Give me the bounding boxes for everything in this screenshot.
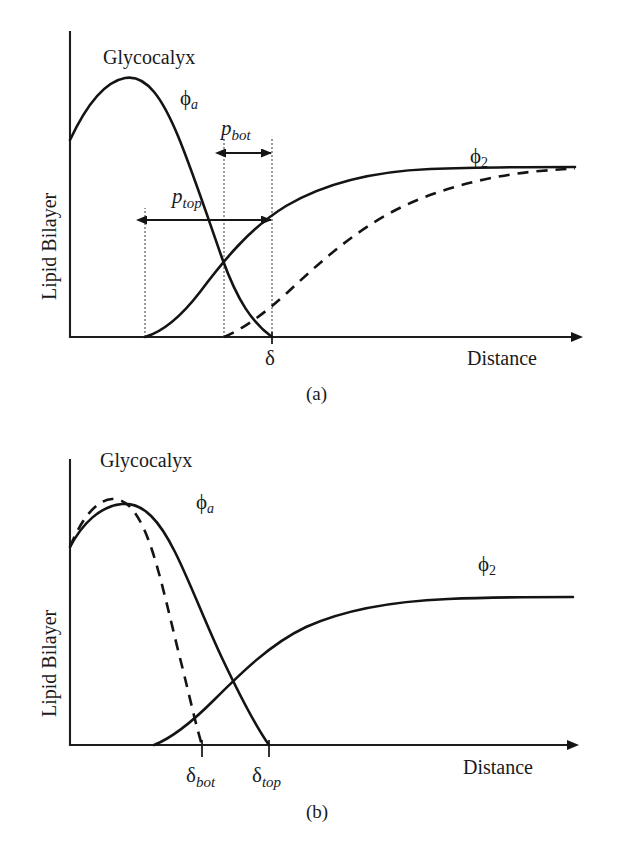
panel-a-y-axis-label: Lipid Bilayer: [38, 193, 61, 300]
panel-b-delta-top-label: δtop: [252, 765, 281, 790]
panel-b-delta-bot-label: δbot: [186, 765, 215, 790]
panel-a-glycocalyx-label: Glycocalyx: [103, 47, 195, 67]
panel-b-phi-2-label: ϕ2: [478, 554, 496, 578]
panel-b-caption: (b): [306, 802, 328, 821]
curve-phi-2-solid: [145, 167, 575, 337]
curve-phi-a-dashed-b: [70, 499, 202, 745]
phi-a-subscript: a: [207, 501, 214, 516]
p-bot-subscript: bot: [232, 127, 251, 143]
panel-b-y-axis-label: Lipid Bilayer: [38, 610, 61, 717]
panel-a-phi-2-label: ϕ2: [470, 146, 488, 170]
delta-top-subscript: top: [262, 774, 281, 790]
phi-a-subscript: a: [191, 97, 198, 112]
phi-a-glyph: ϕ: [180, 86, 191, 110]
panel-a-p-top-label: ptop: [172, 186, 202, 211]
delta-bot-subscript: bot: [196, 774, 215, 790]
delta-bot-glyph: δ: [186, 763, 196, 787]
phi-2-glyph: ϕ: [470, 144, 481, 168]
curve-phi-a-solid-b: [70, 504, 269, 745]
p-top-subscript: top: [183, 195, 202, 211]
curve-phi-2-dashed: [224, 169, 575, 338]
delta-top-glyph: δ: [252, 763, 262, 787]
panel-a-x-axis-label: Distance: [467, 348, 537, 368]
curve-phi-2-solid-b: [154, 597, 573, 745]
panel-a-caption: (a): [306, 384, 327, 403]
p-bot-glyph: p: [221, 116, 232, 140]
panel-b-x-axis-label: Distance: [463, 757, 533, 777]
panel-b-plot: [0, 432, 619, 863]
p-top-glyph: p: [172, 184, 183, 208]
phi-2-subscript: 2: [489, 563, 496, 578]
panel-a-delta-tick-label: δ: [265, 348, 275, 369]
figure-root: Lipid Bilayer Glycocalyx ϕa ϕ2 pbot ptop…: [0, 0, 619, 863]
phi-2-subscript: 2: [481, 155, 488, 170]
panel-b: Lipid Bilayer Glycocalyx ϕa ϕ2 δbot δtop…: [0, 432, 619, 863]
panel-a-p-bot-label: pbot: [221, 118, 251, 143]
panel-a: Lipid Bilayer Glycocalyx ϕa ϕ2 pbot ptop…: [0, 0, 619, 432]
panel-b-glycocalyx-label: Glycocalyx: [100, 450, 192, 470]
panel-b-phi-a-label: ϕa: [196, 492, 214, 516]
phi-a-glyph: ϕ: [196, 490, 207, 514]
phi-2-glyph: ϕ: [478, 552, 489, 576]
curve-phi-a-solid: [70, 78, 272, 337]
panel-a-phi-a-label: ϕa: [180, 88, 198, 112]
